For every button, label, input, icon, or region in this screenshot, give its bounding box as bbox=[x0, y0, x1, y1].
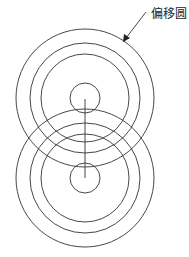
leader-line bbox=[126, 12, 146, 38]
offset-circles-diagram bbox=[0, 0, 189, 257]
arrowhead-icon bbox=[123, 34, 130, 42]
